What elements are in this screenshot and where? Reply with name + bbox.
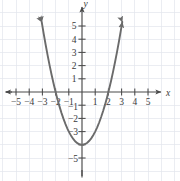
y-tick-label-2: 2 [72,61,77,71]
x-tick-label-1: 1 [93,97,98,107]
y-tick-label--2: −2 [68,114,78,124]
x-tick-label-4: 4 [132,97,137,107]
coordinate-plane: −5 −4 −3 −2 −1 1 2 3 4 5 5 4 3 2 1 −1 −2… [0,0,180,181]
grid-lines [0,0,180,181]
x-axis-label: x [165,88,171,98]
x-tick-label--5: −5 [11,97,21,107]
y-tick-label--5: −5 [68,154,78,164]
y-tick-label-1: 1 [72,74,77,84]
x-tick-label--3: −3 [37,97,47,107]
y-tick-label-5: 5 [72,21,77,31]
graph-figure: −5 −4 −3 −2 −1 1 2 3 4 5 5 4 3 2 1 −1 −2… [0,0,180,181]
parabola-right-branch [83,22,122,145]
y-tick-label--1: −1 [68,102,78,112]
x-tick-label--4: −4 [24,97,34,107]
y-tick-label-3: 3 [72,48,77,58]
y-axis-label: y [82,0,88,9]
x-tick-label-5: 5 [146,97,151,107]
y-tick-label-4: 4 [72,35,77,45]
x-tick-label-3: 3 [119,97,124,107]
